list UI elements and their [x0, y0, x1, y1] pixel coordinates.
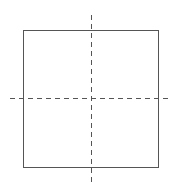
square-with-center-axes-diagram	[0, 0, 179, 192]
